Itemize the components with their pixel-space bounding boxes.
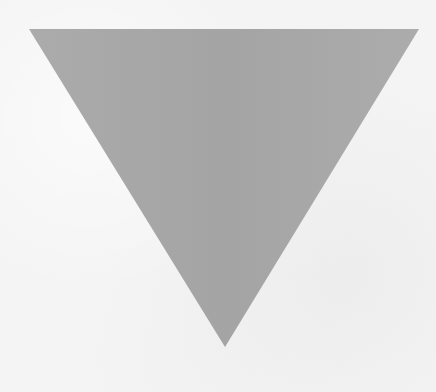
triangle-down-icon <box>29 29 419 347</box>
inverted-triangle-shape <box>0 0 436 392</box>
